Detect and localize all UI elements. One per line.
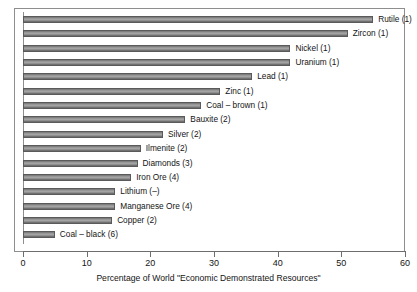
x-axis-tick bbox=[278, 252, 279, 257]
x-axis-tick-label: 30 bbox=[209, 258, 219, 268]
x-axis-tick bbox=[405, 252, 406, 257]
x-axis-tick-label: 20 bbox=[145, 258, 155, 268]
bar-chart-figure: Rutile (1)Zircon (1)Nickel (1)Uranium (1… bbox=[0, 0, 417, 292]
x-axis-title: Percentage of World "Economic Demonstrat… bbox=[0, 273, 417, 283]
x-axis-tick bbox=[23, 252, 24, 257]
x-axis-tick bbox=[214, 252, 215, 257]
x-axis-tick-label: 10 bbox=[82, 258, 92, 268]
plot-frame bbox=[14, 8, 405, 252]
x-axis-tick bbox=[341, 252, 342, 257]
x-axis-tick bbox=[150, 252, 151, 257]
x-axis-tick-label: 50 bbox=[336, 258, 346, 268]
x-axis-tick-label: 0 bbox=[20, 258, 25, 268]
x-axis-tick-label: 40 bbox=[273, 258, 283, 268]
x-axis-tick bbox=[87, 252, 88, 257]
y-axis-line bbox=[23, 12, 24, 244]
x-axis-tick-label: 60 bbox=[400, 258, 410, 268]
